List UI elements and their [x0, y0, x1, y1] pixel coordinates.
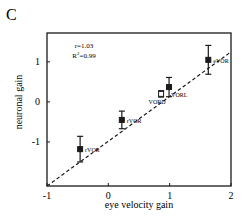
scatter-chart: C -1012 -101 rVORrVORVORDVORLeVOR r=1.03… [0, 0, 246, 217]
annotation-r2: R2=0.99 [72, 51, 96, 60]
data-point: eVOR [205, 45, 228, 74]
x-tick-label: 2 [229, 190, 234, 201]
point-label: eVOR [213, 58, 228, 64]
y-tick-label: 0 [35, 96, 40, 107]
point-label: rVOR [85, 147, 100, 153]
filled-square-marker [119, 117, 124, 122]
filled-square-marker [167, 85, 172, 90]
point-label: rVOR [127, 118, 142, 124]
data-point: VORL [166, 77, 188, 98]
x-tick-label: -1 [43, 190, 51, 201]
y-tick-label: 1 [35, 56, 40, 67]
point-label: VORD [149, 99, 167, 105]
annotation-r: r=1.03 [75, 42, 94, 50]
open-square-marker [159, 91, 164, 96]
y-tick-label: -1 [32, 136, 40, 147]
panel-label: C [6, 6, 17, 23]
x-axis-title: eye velocity gain [105, 199, 173, 210]
data-point: rVOR [77, 136, 100, 162]
data-points: rVORrVORVORDVORLeVOR [77, 45, 229, 162]
data-point: VORD [149, 91, 167, 105]
point-label: VORL [171, 92, 188, 98]
annotation-r2-value: =0.99 [79, 52, 96, 60]
filled-square-marker [206, 57, 211, 62]
filled-square-marker [78, 147, 83, 152]
y-axis-title: neuronal gain [13, 75, 24, 130]
